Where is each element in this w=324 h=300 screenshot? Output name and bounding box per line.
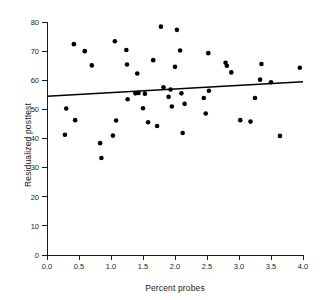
data-point <box>225 63 230 68</box>
data-point <box>135 71 140 76</box>
regression-trendline <box>47 82 303 97</box>
data-point <box>253 96 258 101</box>
data-point <box>114 118 119 123</box>
x-tick-label: 2.5 <box>202 262 212 271</box>
data-point <box>98 141 103 146</box>
x-tick-label: 2.0 <box>170 262 180 271</box>
x-tick-label: 1.0 <box>106 262 116 271</box>
data-point <box>64 106 69 111</box>
data-point <box>298 65 303 70</box>
data-point <box>124 48 129 53</box>
data-point <box>159 24 164 29</box>
x-axis-label: Percent probes <box>47 283 303 293</box>
x-tick-label: 4.0 <box>298 262 308 271</box>
y-tick-label: 0 <box>35 251 39 260</box>
data-point <box>229 70 234 75</box>
data-point <box>173 65 178 70</box>
data-point <box>248 119 253 124</box>
data-point <box>269 80 274 85</box>
trendline-segment <box>47 82 303 97</box>
data-point <box>168 87 173 92</box>
data-point <box>207 88 212 93</box>
x-tick-label: 1.5 <box>138 262 148 271</box>
y-tick-label: 70 <box>31 47 39 56</box>
data-point <box>99 156 104 161</box>
data-point <box>113 39 118 44</box>
y-axis-label: Residualized posttest <box>23 65 33 225</box>
x-axis-tick-labels: 0.00.51.01.52.02.53.03.54.0 <box>42 262 308 271</box>
x-tick-label: 3.5 <box>266 262 276 271</box>
data-point <box>258 77 263 82</box>
y-axis-ticks <box>42 22 47 255</box>
data-point <box>125 62 130 67</box>
data-point <box>170 104 175 109</box>
data-point <box>206 51 211 56</box>
data-point <box>151 58 156 63</box>
data-point <box>125 97 130 102</box>
data-point <box>202 96 207 101</box>
x-tick-label: 3.0 <box>234 262 244 271</box>
data-point <box>141 106 146 111</box>
data-point <box>63 132 68 137</box>
data-point <box>136 91 141 96</box>
data-point <box>166 95 171 100</box>
data-point <box>238 118 243 123</box>
plot-canvas: 01020304050607080 0.00.51.01.52.02.53.03… <box>0 0 324 300</box>
y-tick-label: 80 <box>31 18 39 27</box>
scatter-plot-figure: 01020304050607080 0.00.51.01.52.02.53.03… <box>0 0 324 300</box>
data-point <box>90 63 95 68</box>
x-tick-label: 0.0 <box>42 262 52 271</box>
data-point <box>143 91 148 96</box>
x-axis-ticks <box>47 255 303 260</box>
data-point <box>82 49 87 54</box>
x-tick-label: 0.5 <box>74 262 84 271</box>
data-point <box>259 62 264 67</box>
data-point <box>175 28 180 33</box>
data-point <box>178 48 183 53</box>
data-point <box>146 120 151 125</box>
data-point <box>179 91 184 96</box>
data-point <box>72 42 77 47</box>
data-point <box>182 102 187 107</box>
data-points-group <box>63 24 302 160</box>
data-point <box>73 118 78 123</box>
data-point <box>203 111 208 116</box>
data-point <box>111 133 116 138</box>
data-point <box>161 85 166 90</box>
data-point <box>278 134 283 139</box>
data-point <box>155 124 160 129</box>
data-point <box>180 131 185 136</box>
axes <box>47 22 303 255</box>
